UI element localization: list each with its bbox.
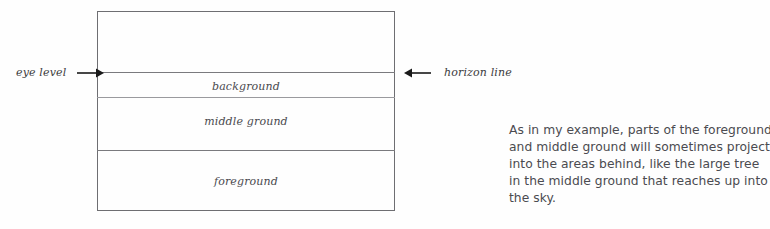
divider-eye-level: [97, 72, 395, 73]
annotation-horizon-line: horizon line: [403, 66, 512, 79]
body-line: As in my example, parts of the foregroun…: [509, 122, 767, 139]
zone-label-foreground: foreground: [97, 175, 395, 188]
divider-middle-foreground: [97, 150, 395, 151]
annotation-eye-level: eye level: [16, 66, 105, 79]
zone-label-background: background: [97, 80, 395, 93]
divider-background-middle: [97, 97, 395, 98]
body-line: and middle ground will sometimes project: [509, 139, 767, 156]
body-line: in the middle ground that reaches up int…: [509, 173, 767, 190]
body-paragraph: As in my example, parts of the foregroun…: [509, 122, 767, 207]
arrow-right-icon: [77, 67, 105, 79]
body-line: into the areas behind, like the large tr…: [509, 156, 767, 173]
horizon-line-label: horizon line: [444, 66, 512, 79]
page-canvas: background middle ground foreground eye …: [0, 0, 770, 229]
arrow-left-icon: [403, 67, 431, 79]
zone-label-middle-ground: middle ground: [97, 115, 395, 128]
body-line: the sky.: [509, 190, 767, 207]
eye-level-label: eye level: [16, 66, 66, 79]
perspective-zone-diagram: background middle ground foreground: [97, 11, 395, 211]
